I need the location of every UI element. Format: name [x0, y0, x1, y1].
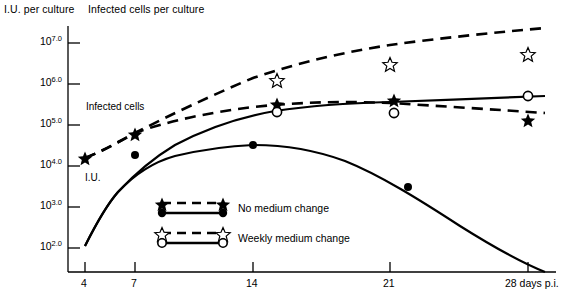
y-axis-ticks [68, 43, 80, 248]
legend-label-weekly-medium-change: Weekly medium change [238, 232, 350, 244]
y-tick-label-1: 106.0 [18, 76, 62, 88]
y-tick-label-5: 102.0 [18, 240, 62, 252]
markers-iu-nomedium [131, 141, 412, 191]
chart-figure: I.U. per culture Infected cells per cult… [0, 0, 583, 301]
x-tick-label-1: 7 [131, 277, 137, 289]
series-line-infected-cells-weekly [85, 28, 545, 158]
x-tick-label-4: 28 days p.i. [505, 277, 559, 289]
x-tick-label-0: 4 [81, 277, 87, 289]
x-axis-ticks [85, 262, 528, 272]
markers-infected-cells-nomedium [78, 94, 535, 166]
y-tick-label-2: 105.0 [18, 117, 62, 129]
legend-sample-filled [155, 198, 230, 218]
x-tick-label-3: 21 [383, 277, 395, 289]
y-tick-label-4: 103.0 [18, 199, 62, 211]
legend-label-no-medium-change: No medium change [238, 202, 329, 214]
series-line-infected-cells-nomedium [85, 102, 545, 158]
y-tick-label-3: 104.0 [18, 158, 62, 170]
x-tick-label-2: 14 [246, 277, 258, 289]
plot-canvas [0, 0, 583, 301]
markers-infected-cells-weekly [270, 48, 535, 88]
legend-sample-open [155, 228, 230, 248]
series-line-iu-weekly [85, 96, 545, 246]
y-tick-label-0: 107.0 [18, 35, 62, 47]
